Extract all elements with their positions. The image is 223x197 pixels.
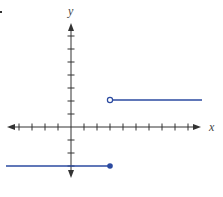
corner-mark [0, 11, 2, 13]
open-endpoint-marker [107, 97, 112, 102]
y-axis: y [67, 4, 75, 178]
x-axis: x [7, 120, 215, 134]
y-axis-up-arrow-icon [68, 23, 74, 31]
y-axis-label: y [67, 4, 74, 18]
x-axis-right-arrow-icon [193, 124, 201, 130]
coordinate-graph: x y [0, 0, 223, 197]
closed-endpoint-marker [107, 163, 113, 169]
y-axis-down-arrow-icon [68, 170, 74, 178]
x-axis-left-arrow-icon [7, 124, 15, 130]
x-axis-label: x [208, 120, 215, 134]
piecewise-graph [6, 97, 202, 168]
